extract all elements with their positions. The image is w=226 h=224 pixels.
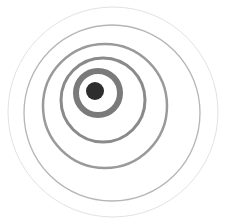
concentric-rings [8, 7, 218, 217]
ripple-icon-canvas [0, 0, 226, 224]
center-dot-icon [86, 82, 104, 100]
ripple-signal-icon [0, 0, 226, 224]
